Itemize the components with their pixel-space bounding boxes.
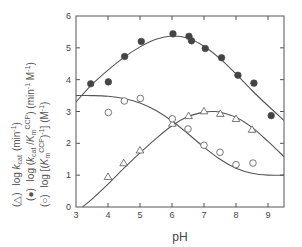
triangle-point bbox=[120, 159, 128, 165]
open-circle-point bbox=[233, 161, 240, 168]
filled-circle-point bbox=[235, 72, 242, 79]
x-tick-label: 3 bbox=[73, 210, 78, 220]
filled-circle-point bbox=[121, 53, 128, 60]
x-tick-label: 5 bbox=[137, 210, 142, 220]
filled-circle-point bbox=[170, 31, 177, 38]
filled-circle-point bbox=[202, 45, 209, 52]
y-tick-label: 6 bbox=[66, 11, 71, 21]
filled-legend-paren: ( bbox=[25, 203, 36, 207]
open-circle-point bbox=[169, 116, 176, 123]
ph-rate-chart: 34567890123456 pH (△) log kcat(min-1) ( … bbox=[0, 0, 302, 247]
open-circle-point bbox=[250, 160, 257, 167]
y-tick-label: 1 bbox=[66, 170, 71, 180]
fit-curves bbox=[76, 36, 284, 207]
x-tick-label: 8 bbox=[233, 210, 238, 220]
filled-circle-point bbox=[218, 54, 225, 61]
ylabel-km-inverse: (○) log [(KmCCP)-1] (M-1) bbox=[38, 102, 51, 207]
triangle-legend-icon: (△) bbox=[11, 192, 22, 207]
filled-circle-point bbox=[268, 112, 275, 119]
ylabel-kcat-km: ( (●) log (kcat /KmCCP) (min-1 M-1) bbox=[24, 62, 37, 207]
y-tick-label: 0 bbox=[66, 202, 71, 212]
y-tick-label: 3 bbox=[66, 107, 71, 117]
y-tick-label: 2 bbox=[66, 138, 71, 148]
open-circle-point bbox=[217, 149, 224, 156]
open-circle-point bbox=[185, 126, 192, 133]
data-points bbox=[87, 31, 274, 180]
filled-circle-point bbox=[87, 81, 94, 88]
x-tick-label: 9 bbox=[265, 210, 270, 220]
triangle-point bbox=[200, 107, 208, 113]
axes: 34567890123456 bbox=[66, 11, 284, 220]
filled-circle-point bbox=[138, 38, 145, 45]
open-circle-point bbox=[201, 142, 208, 149]
y-tick-label: 5 bbox=[66, 43, 71, 53]
filled-circle-point bbox=[251, 80, 258, 87]
filled-circle-point bbox=[188, 38, 195, 45]
x-tick-label: 7 bbox=[201, 210, 206, 220]
x-axis-title: pH bbox=[172, 230, 187, 244]
x-tick-label: 4 bbox=[105, 210, 110, 220]
open-circle-point bbox=[105, 109, 112, 116]
filled-circle-legend-icon: (●) bbox=[25, 188, 36, 201]
y-axis-label-block: (△) log kcat(min-1) ( (●) log (kcat /KmC… bbox=[10, 62, 51, 207]
filled-circle-point bbox=[105, 79, 112, 86]
y-tick-label: 4 bbox=[66, 75, 71, 85]
fit-curve-open-triangle bbox=[82, 111, 284, 207]
x-tick-label: 6 bbox=[169, 210, 174, 220]
open-circle-point bbox=[121, 98, 128, 105]
triangle-point bbox=[104, 173, 112, 179]
open-circle-legend-icon: (○) bbox=[39, 194, 50, 207]
fit-curve-filled-circle bbox=[76, 36, 284, 120]
open-circle-point bbox=[137, 95, 144, 102]
ylabel-kcat: (△) log kcat(min-1) bbox=[10, 122, 23, 207]
